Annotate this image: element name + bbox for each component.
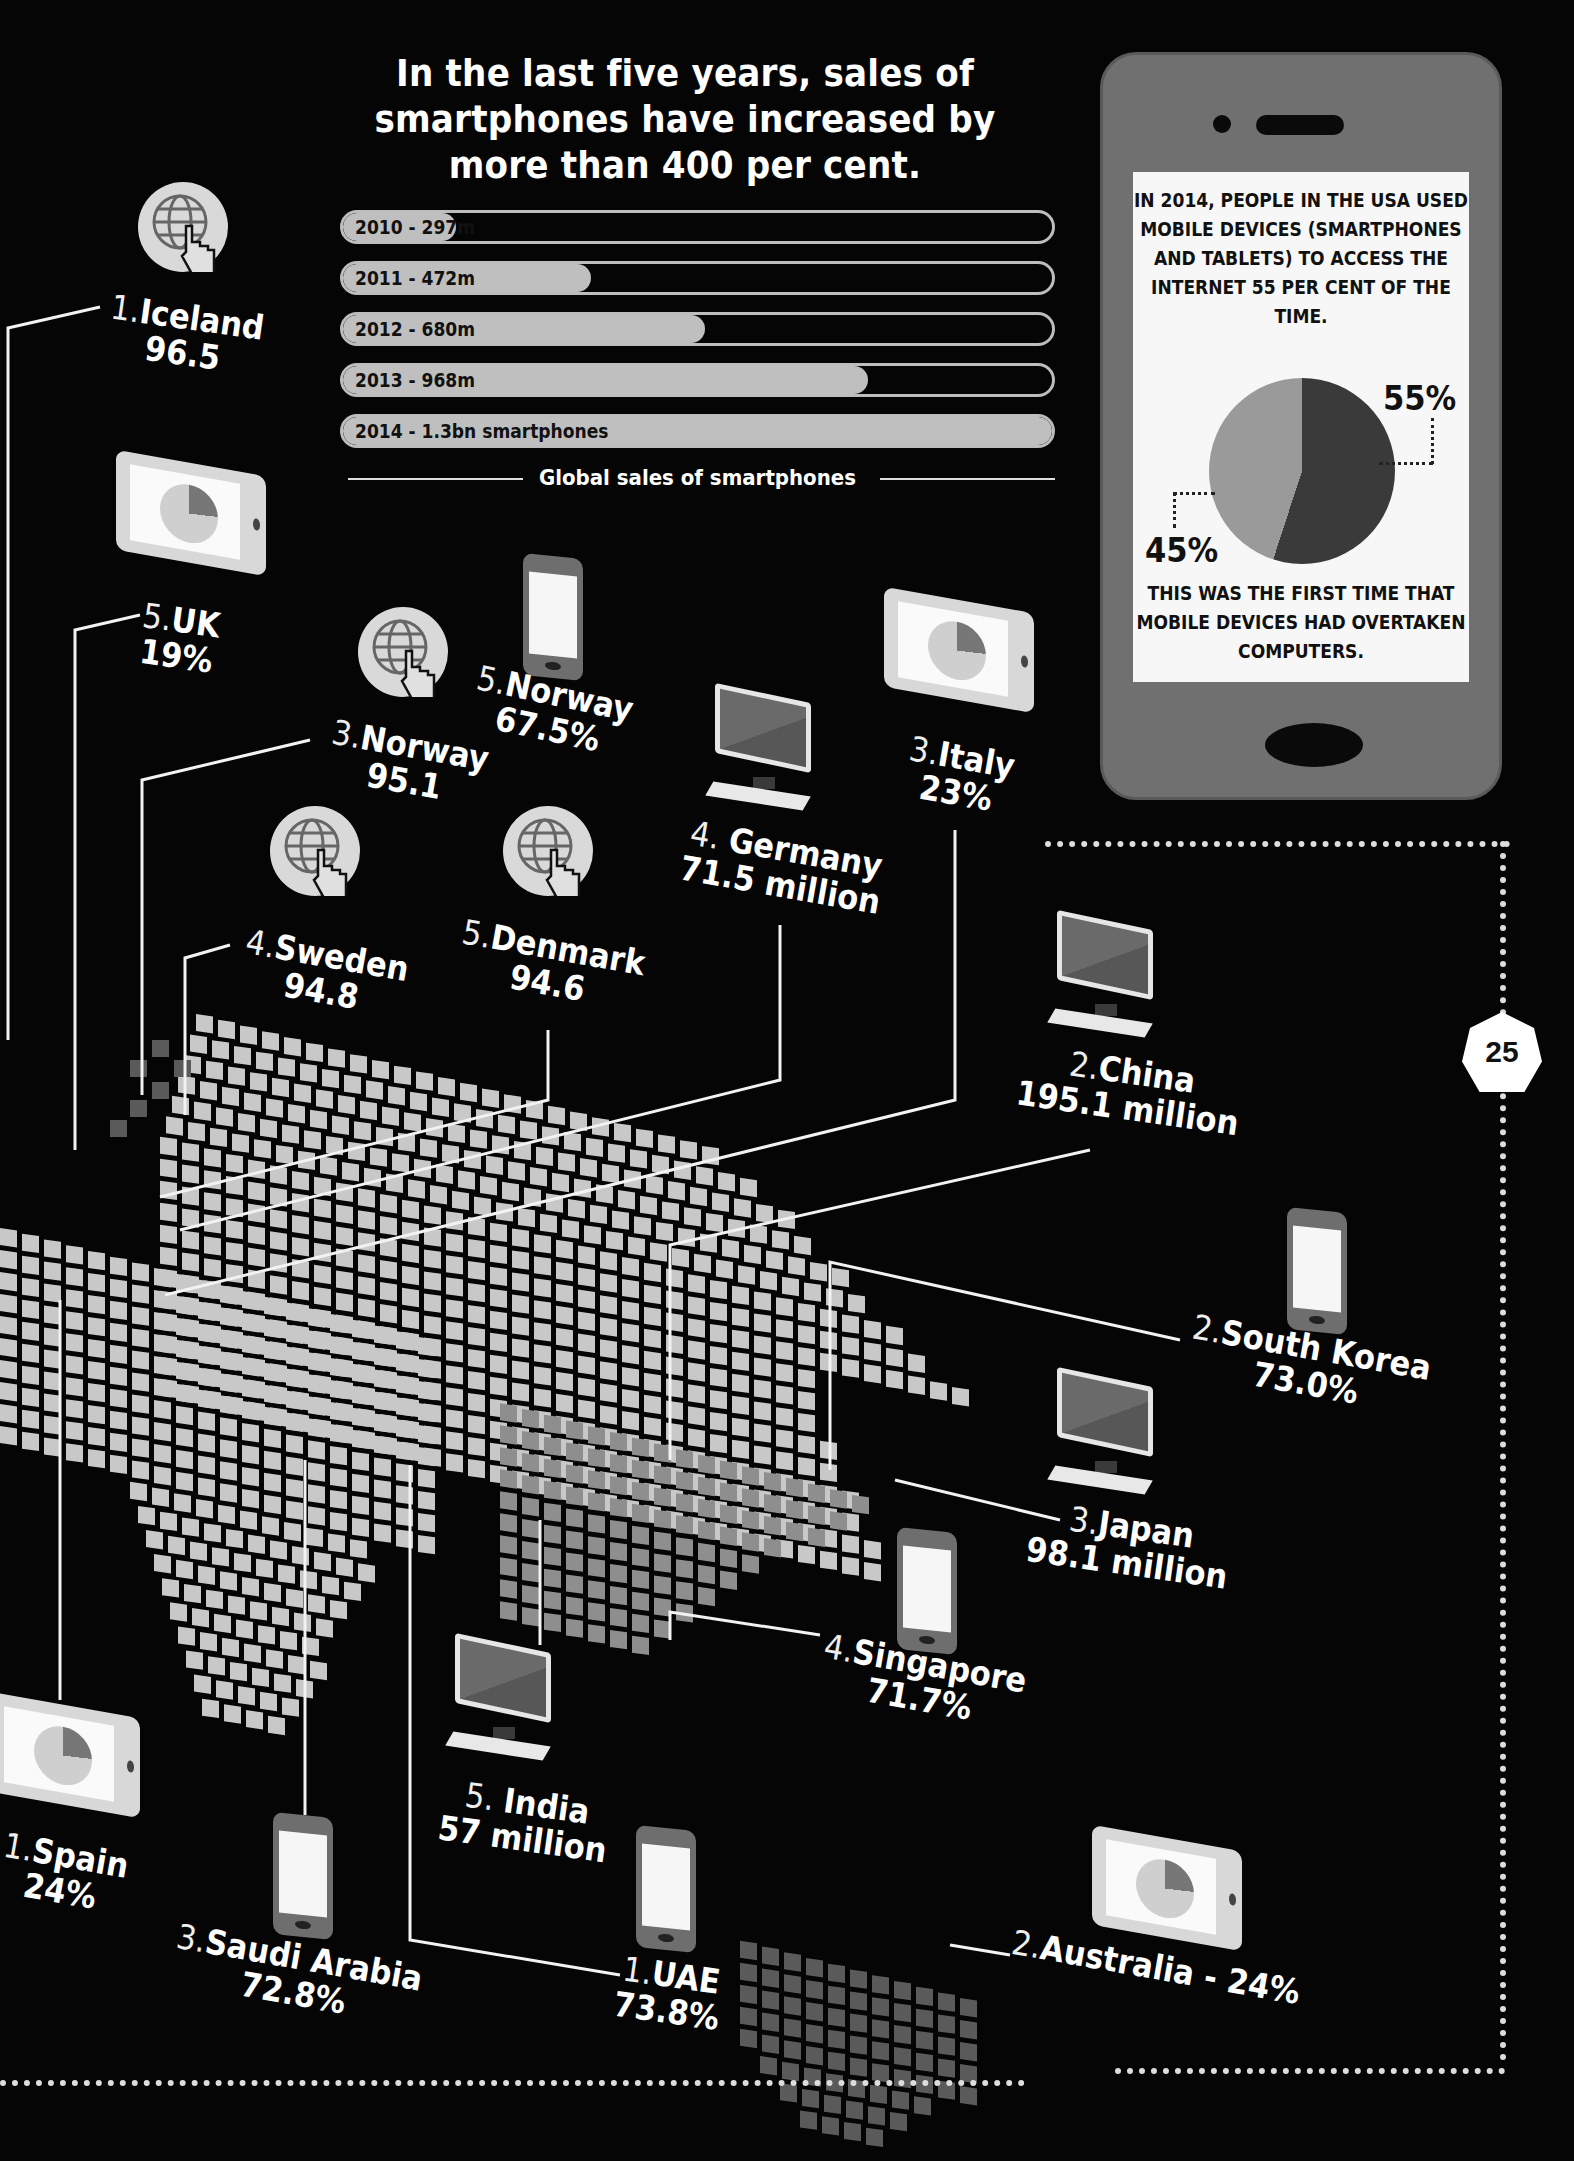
globe-click-icon: [503, 806, 593, 896]
computer-icon: [445, 1643, 555, 1753]
smartphone-icon: [897, 1527, 957, 1655]
computer-icon: [1047, 920, 1157, 1030]
label-uk: 5.UK 19%: [136, 598, 223, 678]
label-italy: 3.Italy 23%: [901, 731, 1018, 818]
dotted-border-top: [1045, 841, 1510, 847]
globe-click-icon: [138, 182, 228, 272]
smartphone-icon: [1287, 1207, 1347, 1335]
computer-icon: [1047, 1377, 1157, 1487]
smartphone-icon: [523, 553, 583, 681]
smartphone-icon: [273, 1812, 333, 1940]
computer-icon: [705, 693, 815, 803]
label-uae: 1.UAE 73.8%: [612, 1951, 727, 2035]
globe-click-icon: [358, 607, 448, 697]
smartphone-icon: [636, 1825, 696, 1953]
dotted-border-bottom-left: [0, 2080, 1025, 2086]
dotted-border-bottom-right: [1115, 2068, 1505, 2074]
globe-click-icon: [270, 806, 360, 896]
